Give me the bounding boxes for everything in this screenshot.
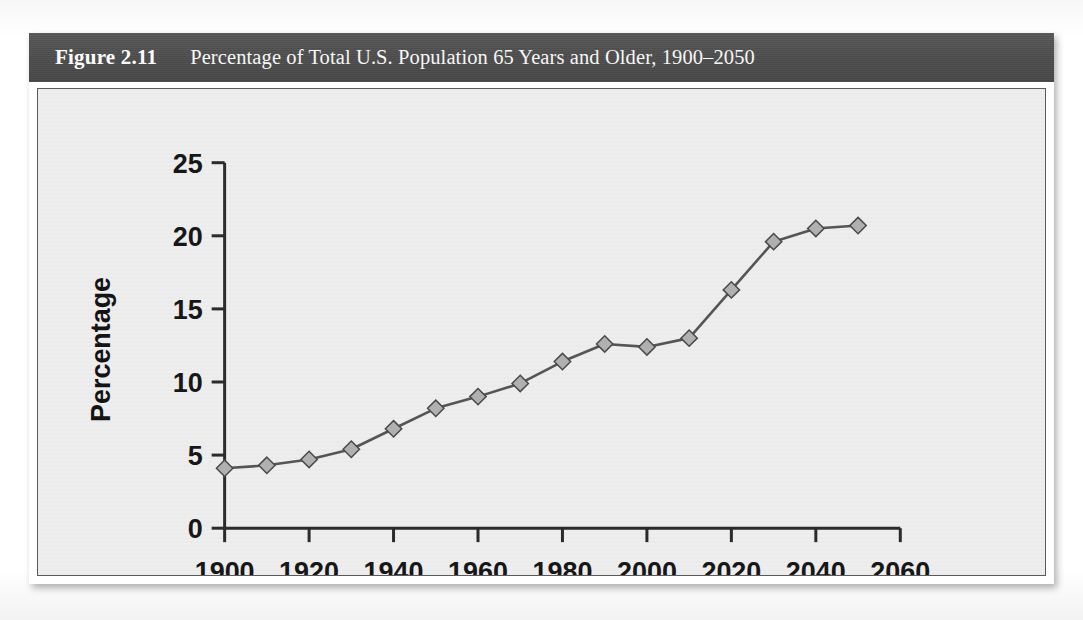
data-point-marker xyxy=(470,388,486,404)
data-point-marker xyxy=(343,441,359,457)
y-tick-label: 0 xyxy=(188,514,203,544)
x-tick-label: 1940 xyxy=(364,557,424,575)
source-note-strip xyxy=(29,604,1054,620)
y-tick-label: 10 xyxy=(173,368,203,398)
y-tick-label: 5 xyxy=(188,441,203,471)
y-axis-ticks: 0510152025 xyxy=(173,149,225,544)
x-tick-label: 2060 xyxy=(870,557,930,575)
figure-number: Figure 2.11 xyxy=(55,45,157,70)
data-point-marker xyxy=(850,217,866,233)
data-point-marker xyxy=(597,336,613,352)
figure-root: Figure 2.11 Percentage of Total U.S. Pop… xyxy=(0,0,1083,620)
chart-axes xyxy=(225,163,901,528)
y-tick-label: 15 xyxy=(173,295,203,325)
y-axis-title: Percentage xyxy=(86,277,116,422)
data-point-marker xyxy=(259,457,275,473)
line-chart: 0510152025 19001920194019601980200020202… xyxy=(38,89,1045,575)
data-point-marker xyxy=(216,460,232,476)
x-axis-ticks: 190019201940196019802000202020402060 xyxy=(195,528,931,575)
plot-panel: 0510152025 19001920194019601980200020202… xyxy=(37,88,1046,576)
figure-header-band: Figure 2.11 Percentage of Total U.S. Pop… xyxy=(29,33,1054,82)
figure-box: Figure 2.11 Percentage of Total U.S. Pop… xyxy=(29,33,1054,584)
x-tick-label: 1960 xyxy=(448,557,508,575)
y-tick-label: 25 xyxy=(173,149,203,179)
y-tick-label: 20 xyxy=(173,222,203,252)
x-tick-label: 2040 xyxy=(786,557,846,575)
data-point-marker xyxy=(639,339,655,355)
x-tick-label: 1980 xyxy=(532,557,592,575)
axis-titles: Percentage xyxy=(86,277,116,422)
data-series-line xyxy=(225,226,858,469)
data-point-marker xyxy=(428,400,444,416)
data-point-marker xyxy=(512,375,528,391)
series-line xyxy=(225,226,858,469)
data-point-marker xyxy=(301,451,317,467)
data-point-marker xyxy=(554,353,570,369)
data-point-marker xyxy=(808,220,824,236)
data-point-marker xyxy=(385,421,401,437)
x-tick-label: 1900 xyxy=(195,557,255,575)
figure-caption-title: Percentage of Total U.S. Population 65 Y… xyxy=(190,46,755,69)
x-tick-label: 2020 xyxy=(701,557,761,575)
x-tick-label: 2000 xyxy=(617,557,677,575)
x-tick-label: 1920 xyxy=(279,557,339,575)
data-point-markers xyxy=(216,217,866,476)
